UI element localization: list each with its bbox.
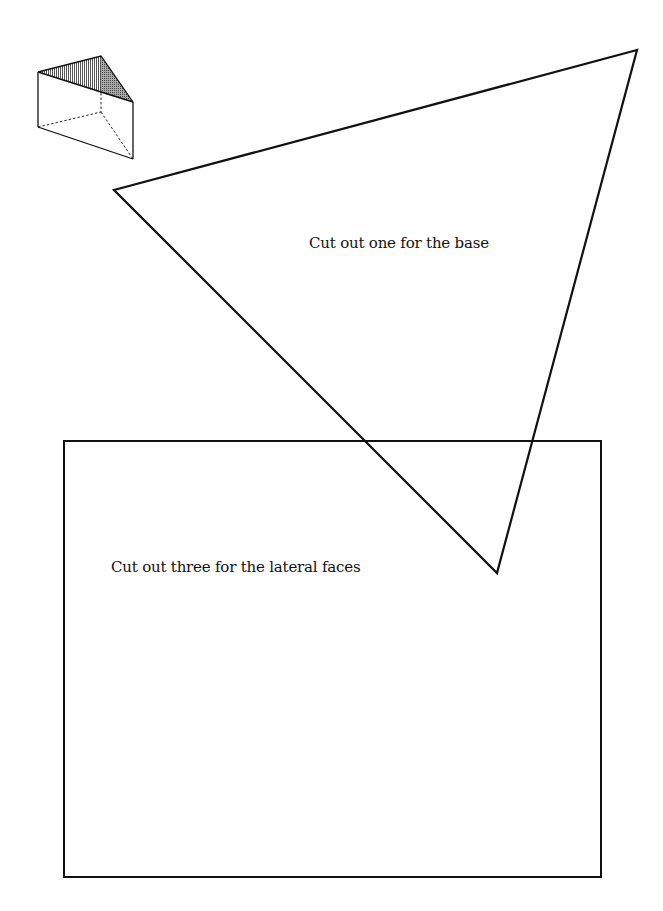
cutout-sheet [0,0,663,911]
base-instruction-label: Cut out one for the base [309,234,489,252]
lateral-face-rectangle [64,441,601,877]
base-triangle [114,50,637,573]
triangular-prism-icon [38,56,133,159]
lateral-instruction-label: Cut out three for the lateral faces [111,558,360,576]
